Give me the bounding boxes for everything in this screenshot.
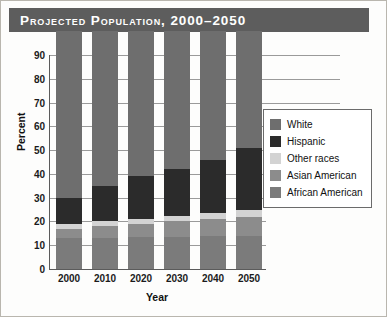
legend-item: White: [270, 116, 363, 133]
y-tick-label: 50: [34, 145, 45, 156]
bar-segment-hispanic: [92, 186, 118, 222]
bar-2040: [200, 31, 226, 269]
gridline-40: [50, 174, 266, 175]
bar-2010: [92, 31, 118, 269]
bar-segment-white: [236, 31, 262, 148]
legend-label: White: [287, 119, 313, 130]
legend-swatch-icon: [270, 187, 281, 198]
legend-item: Hispanic: [270, 133, 363, 150]
legend-swatch-icon: [270, 119, 281, 130]
legend-swatch-icon: [270, 153, 281, 164]
y-tick-label: 80: [34, 73, 45, 84]
legend-item: African American: [270, 184, 363, 201]
bar-2030: [164, 31, 190, 269]
y-tick-label: 40: [34, 168, 45, 179]
bar-segment-hispanic: [200, 160, 226, 213]
bar-segment-other-races: [164, 216, 190, 222]
legend-label: Other races: [287, 153, 339, 164]
bar-segment-hispanic: [164, 169, 190, 216]
bar-segment-asian-american: [164, 221, 190, 236]
bar-segment-asian-american: [56, 229, 82, 239]
bar-segment-asian-american: [128, 224, 154, 237]
bar-segment-african-american: [56, 238, 82, 269]
bar-2000: [56, 31, 82, 269]
bar-segment-african-american: [128, 237, 154, 269]
chart-figure: Projected Population, 2000–2050 Percent …: [0, 0, 387, 317]
page-title: Projected Population, 2000–2050: [9, 13, 246, 28]
bar-segment-african-american: [200, 236, 226, 269]
plot-area: 0102030405060708090 20002010202020302040…: [49, 55, 266, 270]
bar-segment-hispanic: [128, 176, 154, 218]
y-tick-label: 10: [34, 240, 45, 251]
y-tick-label: 70: [34, 97, 45, 108]
bar-segment-other-races: [236, 210, 262, 217]
legend-swatch-icon: [270, 136, 281, 147]
x-axis-label: Year: [49, 291, 265, 303]
bar-segment-other-races: [56, 224, 82, 228]
gridline-20: [50, 221, 266, 222]
y-tick-label: 60: [34, 121, 45, 132]
legend: WhiteHispanicOther racesAsian AmericanAf…: [263, 109, 372, 208]
bar-segment-asian-american: [236, 217, 262, 236]
bar-segment-african-american: [92, 238, 118, 269]
bar-segment-african-american: [164, 237, 190, 269]
bar-segment-hispanic: [236, 148, 262, 210]
legend-item: Other races: [270, 150, 363, 167]
y-axis-label: Percent: [15, 112, 27, 151]
x-tick-label: 2050: [228, 273, 270, 284]
gridline-10: [50, 245, 266, 246]
gridline-30: [50, 198, 266, 199]
y-tick-label: 0: [39, 264, 45, 275]
bar-segment-white: [128, 31, 154, 176]
bar-segment-asian-american: [200, 219, 226, 236]
bar-segment-asian-american: [92, 226, 118, 237]
bar-segment-white: [200, 31, 226, 159]
y-tick-label: 20: [34, 216, 45, 227]
bar-segment-white: [92, 31, 118, 186]
bar-segment-white: [56, 31, 82, 197]
y-tick-label: 30: [34, 192, 45, 203]
bar-2050: [236, 31, 262, 269]
bar-segment-hispanic: [56, 198, 82, 225]
y-tick-label: 90: [34, 50, 45, 61]
bar-segment-other-races: [200, 213, 226, 219]
title-banner: Projected Population, 2000–2050: [9, 8, 369, 32]
legend-item: Asian American: [270, 167, 363, 184]
bar-2020: [128, 31, 154, 269]
legend-label: Asian American: [287, 170, 356, 181]
bar-segment-african-american: [236, 236, 262, 269]
bar-segment-other-races: [128, 219, 154, 224]
legend-label: Hispanic: [287, 136, 325, 147]
legend-swatch-icon: [270, 170, 281, 181]
bar-segment-white: [164, 31, 190, 169]
legend-label: African American: [287, 187, 363, 198]
bar-segment-other-races: [92, 221, 118, 226]
